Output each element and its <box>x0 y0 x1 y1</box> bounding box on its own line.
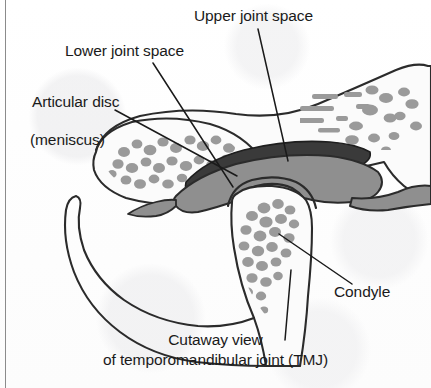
label-condyle: Condyle <box>334 282 390 301</box>
figure-caption-line2: of temporomandibular joint (TMJ) <box>0 350 431 370</box>
label-lower-joint-space: Lower joint space <box>65 41 184 60</box>
figure-page: Upper joint space Lower joint space Arti… <box>0 0 431 388</box>
disc-anterior-attachment <box>128 200 176 217</box>
figure-caption-line1: Cutaway view <box>0 330 431 350</box>
label-articular-disc-line1: Articular disc <box>32 93 119 110</box>
figure-caption: Cutaway view of temporomandibular joint … <box>0 330 431 370</box>
label-upper-joint-space: Upper joint space <box>194 6 313 25</box>
label-articular-disc-line2: (meniscus) <box>16 130 119 149</box>
label-articular-disc: Articular disc (meniscus) <box>16 73 119 187</box>
